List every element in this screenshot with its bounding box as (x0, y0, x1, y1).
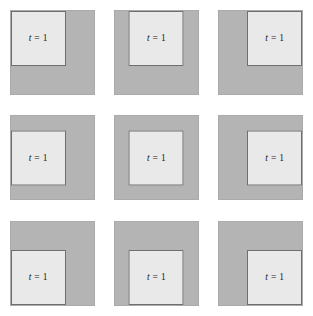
label-operator: = (271, 33, 277, 43)
label-value: 1 (161, 272, 166, 282)
label-value: 1 (43, 152, 48, 162)
label-variable: t (147, 33, 150, 43)
label-variable: t (265, 152, 268, 162)
label-variable: t (147, 152, 150, 162)
outer-square: t = 1 (114, 221, 199, 306)
figure-panel: t = 1 (209, 105, 313, 210)
inner-square-bottom-right: t = 1 (247, 250, 302, 305)
outer-square: t = 1 (218, 10, 303, 95)
label-variable: t (265, 33, 268, 43)
label-variable: t (265, 272, 268, 282)
label-operator: = (153, 152, 159, 162)
figure-panel: t = 1 (209, 211, 313, 316)
label-operator: = (271, 152, 277, 162)
label-variable: t (29, 272, 32, 282)
panel-label: t = 1 (29, 34, 48, 44)
panel-label: t = 1 (29, 153, 48, 163)
label-operator: = (271, 272, 277, 282)
outer-square: t = 1 (114, 115, 199, 200)
label-value: 1 (161, 152, 166, 162)
label-value: 1 (279, 33, 284, 43)
outer-square: t = 1 (218, 115, 303, 200)
label-operator: = (34, 33, 40, 43)
label-operator: = (34, 152, 40, 162)
inner-square-top-center: t = 1 (129, 11, 184, 66)
figure-panel: t = 1 (0, 105, 104, 210)
outer-square: t = 1 (10, 221, 95, 306)
panel-label: t = 1 (147, 34, 166, 44)
label-value: 1 (161, 33, 166, 43)
panel-label: t = 1 (29, 273, 48, 283)
outer-square: t = 1 (114, 10, 199, 95)
outer-square: t = 1 (10, 115, 95, 200)
inner-square-middle-center: t = 1 (129, 130, 184, 185)
panel-label: t = 1 (265, 273, 284, 283)
inner-square-top-left: t = 1 (11, 11, 66, 66)
figure-panel: t = 1 (104, 105, 208, 210)
figure-panel: t = 1 (0, 211, 104, 316)
inner-square-middle-right: t = 1 (247, 130, 302, 185)
label-operator: = (34, 272, 40, 282)
panel-label: t = 1 (265, 153, 284, 163)
label-variable: t (147, 272, 150, 282)
inner-square-bottom-center: t = 1 (129, 250, 184, 305)
panel-label: t = 1 (147, 273, 166, 283)
inner-square-top-right: t = 1 (247, 11, 302, 66)
outer-square: t = 1 (10, 10, 95, 95)
panel-grid: t = 1t = 1t = 1t = 1t = 1t = 1t = 1t = 1… (0, 0, 313, 316)
label-variable: t (29, 152, 32, 162)
inner-square-bottom-left: t = 1 (11, 250, 66, 305)
label-value: 1 (43, 272, 48, 282)
figure-panel: t = 1 (104, 211, 208, 316)
label-value: 1 (279, 272, 284, 282)
label-variable: t (29, 33, 32, 43)
outer-square: t = 1 (218, 221, 303, 306)
panel-label: t = 1 (265, 34, 284, 44)
label-value: 1 (43, 33, 48, 43)
panel-label: t = 1 (147, 153, 166, 163)
label-operator: = (153, 33, 159, 43)
figure-panel: t = 1 (209, 0, 313, 105)
label-value: 1 (279, 152, 284, 162)
figure-panel: t = 1 (104, 0, 208, 105)
label-operator: = (153, 272, 159, 282)
inner-square-middle-left: t = 1 (11, 130, 66, 185)
figure-panel: t = 1 (0, 0, 104, 105)
